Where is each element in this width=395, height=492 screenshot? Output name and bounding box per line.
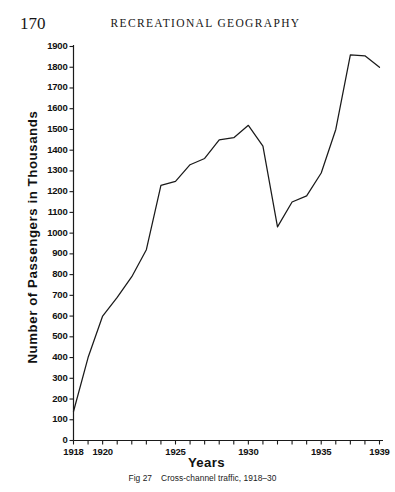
data-series-line bbox=[74, 55, 380, 412]
y-axis-tick-label: 200 bbox=[34, 394, 68, 404]
figure-caption: Fig 27Cross-channel traffic, 1918–30 bbox=[0, 473, 389, 483]
figure-number: Fig 27 bbox=[129, 473, 153, 483]
chart-plot-area: 0100200300400500600700800900100011001200… bbox=[0, 0, 389, 458]
x-axis-title: Years bbox=[0, 455, 389, 470]
y-axis-tick-label: 1700 bbox=[34, 82, 68, 92]
axis-lines bbox=[74, 45, 384, 441]
y-axis-tick-label: 0 bbox=[34, 435, 68, 445]
y-axis-tick-label: 300 bbox=[34, 373, 68, 383]
figure-caption-text: Cross-channel traffic, 1918–30 bbox=[161, 473, 276, 483]
y-axis-tick-label: 1800 bbox=[34, 62, 68, 72]
y-axis-tick-label: 100 bbox=[34, 414, 68, 424]
y-axis-title: Number of Passengers in Thousands bbox=[25, 124, 40, 364]
y-axis-tick-label: 1900 bbox=[34, 41, 68, 51]
